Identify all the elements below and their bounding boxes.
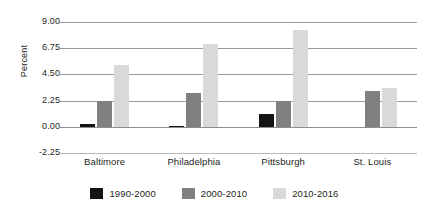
y-axis-tick-label: 2.25 — [6, 96, 60, 105]
plot-area — [60, 22, 417, 153]
bar-group — [149, 22, 238, 153]
bar — [276, 101, 291, 127]
x-axis-category-label: Pittsburgh — [239, 156, 328, 168]
legend-label: 2010-2016 — [292, 188, 338, 199]
bar — [97, 101, 112, 127]
bar — [382, 88, 397, 127]
bar — [365, 91, 380, 127]
bar — [186, 93, 201, 127]
bar-chart: Percent 9.006.754.502.250.00-2.25 Baltim… — [0, 0, 429, 214]
x-axis-category-label: Philadelphia — [149, 156, 238, 168]
legend-swatch-icon — [273, 188, 286, 199]
bar — [203, 44, 218, 126]
legend-label: 2000-2010 — [201, 188, 247, 199]
legend-swatch-icon — [90, 188, 103, 199]
bar — [259, 114, 274, 127]
legend-label: 1990-2000 — [109, 188, 155, 199]
y-axis-tick-label: 0.00 — [6, 122, 60, 131]
bar-group — [239, 22, 328, 153]
y-axis-tick-label: 6.75 — [6, 43, 60, 52]
legend-item[interactable]: 2000-2010 — [182, 188, 247, 199]
x-axis-category-label: St. Louis — [328, 156, 417, 168]
bar-group — [328, 22, 417, 153]
legend-item[interactable]: 2010-2016 — [273, 188, 338, 199]
bar — [114, 65, 129, 127]
legend-swatch-icon — [182, 188, 195, 199]
bar — [293, 30, 308, 127]
bar-group — [60, 22, 149, 153]
bar — [80, 124, 95, 127]
y-axis-tick-label: 9.00 — [6, 17, 60, 26]
y-axis-tick-labels: 9.006.754.502.250.00-2.25 — [0, 0, 60, 214]
legend-item[interactable]: 1990-2000 — [90, 188, 155, 199]
x-axis-category-label: Baltimore — [60, 156, 149, 168]
y-axis-tick-label: 4.50 — [6, 69, 60, 78]
gridline — [60, 153, 417, 154]
chart-legend: 1990-20002000-20102010-2016 — [0, 184, 429, 202]
x-axis-category-labels: BaltimorePhiladelphiaPittsburghSt. Louis — [60, 156, 417, 172]
y-axis-tick-label: -2.25 — [6, 148, 60, 157]
